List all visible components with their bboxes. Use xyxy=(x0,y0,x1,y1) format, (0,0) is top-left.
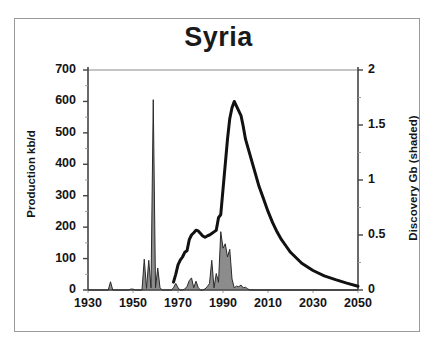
y-tick-left: 100 xyxy=(40,251,76,265)
y-tick-right: 0 xyxy=(368,282,404,296)
y-tick-left: 500 xyxy=(40,125,76,139)
y-tick-right: 1 xyxy=(368,172,404,186)
chart-figure: Syria Production kb/d Discovery Gb (shad… xyxy=(0,0,437,348)
y-tick-right: 1.5 xyxy=(368,117,404,131)
x-tick: 1990 xyxy=(198,296,248,310)
x-tick: 1930 xyxy=(63,296,113,310)
y-tick-left: 200 xyxy=(40,219,76,233)
y-tick-left: 0 xyxy=(40,282,76,296)
y-tick-left: 300 xyxy=(40,188,76,202)
x-tick: 1950 xyxy=(108,296,158,310)
production-line-series xyxy=(174,101,359,286)
y-tick-left: 700 xyxy=(40,62,76,76)
y-tick-left: 600 xyxy=(40,93,76,107)
y-tick-right: 0.5 xyxy=(368,227,404,241)
x-tick: 2010 xyxy=(243,296,293,310)
y-tick-right: 2 xyxy=(368,62,404,76)
x-tick: 2050 xyxy=(333,296,383,310)
y-tick-left: 400 xyxy=(40,156,76,170)
x-tick: 2030 xyxy=(288,296,338,310)
x-tick: 1970 xyxy=(153,296,203,310)
